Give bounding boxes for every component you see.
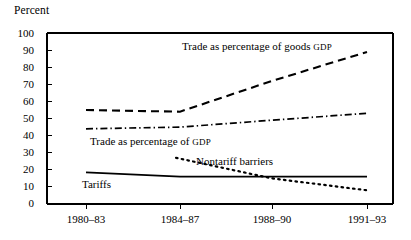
annotation-trade-gdp-text: Trade as percentage of bbox=[90, 135, 192, 147]
annotation-tariffs-text: Tariffs bbox=[82, 178, 111, 190]
line-chart: Percent 100 90 80 70 60 50 40 30 20 10 0… bbox=[0, 0, 411, 240]
annotation-trade-gdp: Trade as percentage of GDP bbox=[90, 135, 211, 148]
annotation-nontariff-barriers: Nontariff barriers bbox=[196, 155, 273, 167]
series-tariffs bbox=[86, 172, 367, 176]
annotation-trade-goods-gdp-smallcaps: GDP bbox=[313, 42, 332, 52]
annotation-trade-goods-gdp: Trade as percentage of goods GDP bbox=[182, 40, 332, 53]
annotation-trade-gdp-smallcaps: GDP bbox=[192, 137, 211, 147]
annotation-nontariff-barriers-text: Nontariff barriers bbox=[196, 155, 273, 167]
series-trade-goods-gdp bbox=[86, 52, 367, 112]
annotation-tariffs: Tariffs bbox=[82, 178, 111, 190]
x-tick-marks bbox=[86, 204, 367, 209]
plot-area bbox=[0, 0, 411, 240]
series-trade-gdp bbox=[86, 113, 367, 129]
annotation-trade-goods-gdp-text: Trade as percentage of goods bbox=[182, 40, 313, 52]
y-tick-marks bbox=[47, 50, 52, 187]
